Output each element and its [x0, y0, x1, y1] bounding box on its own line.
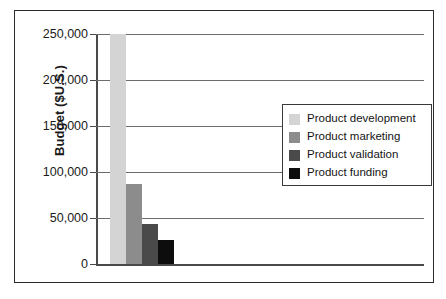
y-tick-label: 100,000: [43, 165, 88, 179]
legend-item: Product marketing: [289, 128, 425, 146]
bar: [158, 240, 174, 264]
bar: [142, 224, 158, 264]
y-tick-mark: [90, 264, 96, 265]
gridline: [96, 218, 424, 219]
legend-item-label: Product funding: [307, 167, 388, 179]
plot-area: 050,000100,000150,000200,000250,000 Prod…: [96, 34, 424, 264]
bar: [110, 34, 126, 264]
y-tick-mark: [90, 172, 96, 173]
y-tick-label: 150,000: [43, 119, 88, 133]
chart-frame: Budget ($U.S.) 050,000100,000150,000200,…: [14, 10, 434, 283]
legend-item-label: Product development: [307, 113, 416, 125]
y-tick-label: 50,000: [50, 211, 88, 225]
y-tick-label: 250,000: [43, 27, 88, 41]
y-tick-mark: [90, 126, 96, 127]
chart-legend: Product developmentProduct marketingProd…: [282, 104, 432, 186]
legend-item: Product validation: [289, 146, 425, 164]
y-tick-mark: [90, 80, 96, 81]
gridline: [96, 264, 424, 266]
gridline: [96, 80, 424, 81]
bar: [126, 184, 142, 264]
y-tick-mark: [90, 218, 96, 219]
legend-swatch-icon: [289, 114, 300, 125]
legend-item: Product development: [289, 110, 425, 128]
legend-swatch-icon: [289, 168, 300, 179]
legend-swatch-icon: [289, 150, 300, 161]
y-tick-mark: [90, 34, 96, 35]
legend-item: Product funding: [289, 164, 425, 182]
y-axis-spine: [96, 34, 98, 264]
legend-swatch-icon: [289, 132, 300, 143]
chart-figure: Budget ($U.S.) 050,000100,000150,000200,…: [0, 0, 446, 299]
legend-item-label: Product validation: [307, 149, 398, 161]
y-tick-label: 0: [81, 257, 88, 271]
y-tick-label: 200,000: [43, 73, 88, 87]
legend-item-label: Product marketing: [307, 131, 400, 143]
gridline: [96, 34, 424, 35]
